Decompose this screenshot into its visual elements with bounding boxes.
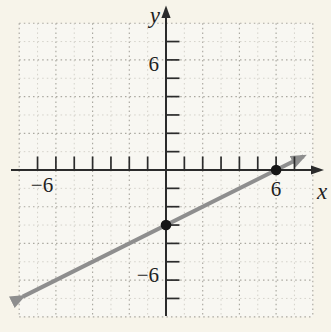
y-axis-label: y [138, 3, 160, 29]
x-axis-arrow-icon [311, 165, 324, 174]
plotted-point [161, 220, 172, 231]
x-axis-label: x [317, 179, 331, 205]
x-axis-tick-label-6: 6 [262, 177, 290, 201]
x-axis-tick-label-neg6: −6 [23, 173, 61, 197]
y-axis-tick-label-neg6: −6 [119, 263, 159, 287]
y-axis-tick-label-6: 6 [129, 52, 159, 76]
plotted-point [271, 165, 282, 176]
y-axis-arrow-icon [161, 6, 170, 19]
